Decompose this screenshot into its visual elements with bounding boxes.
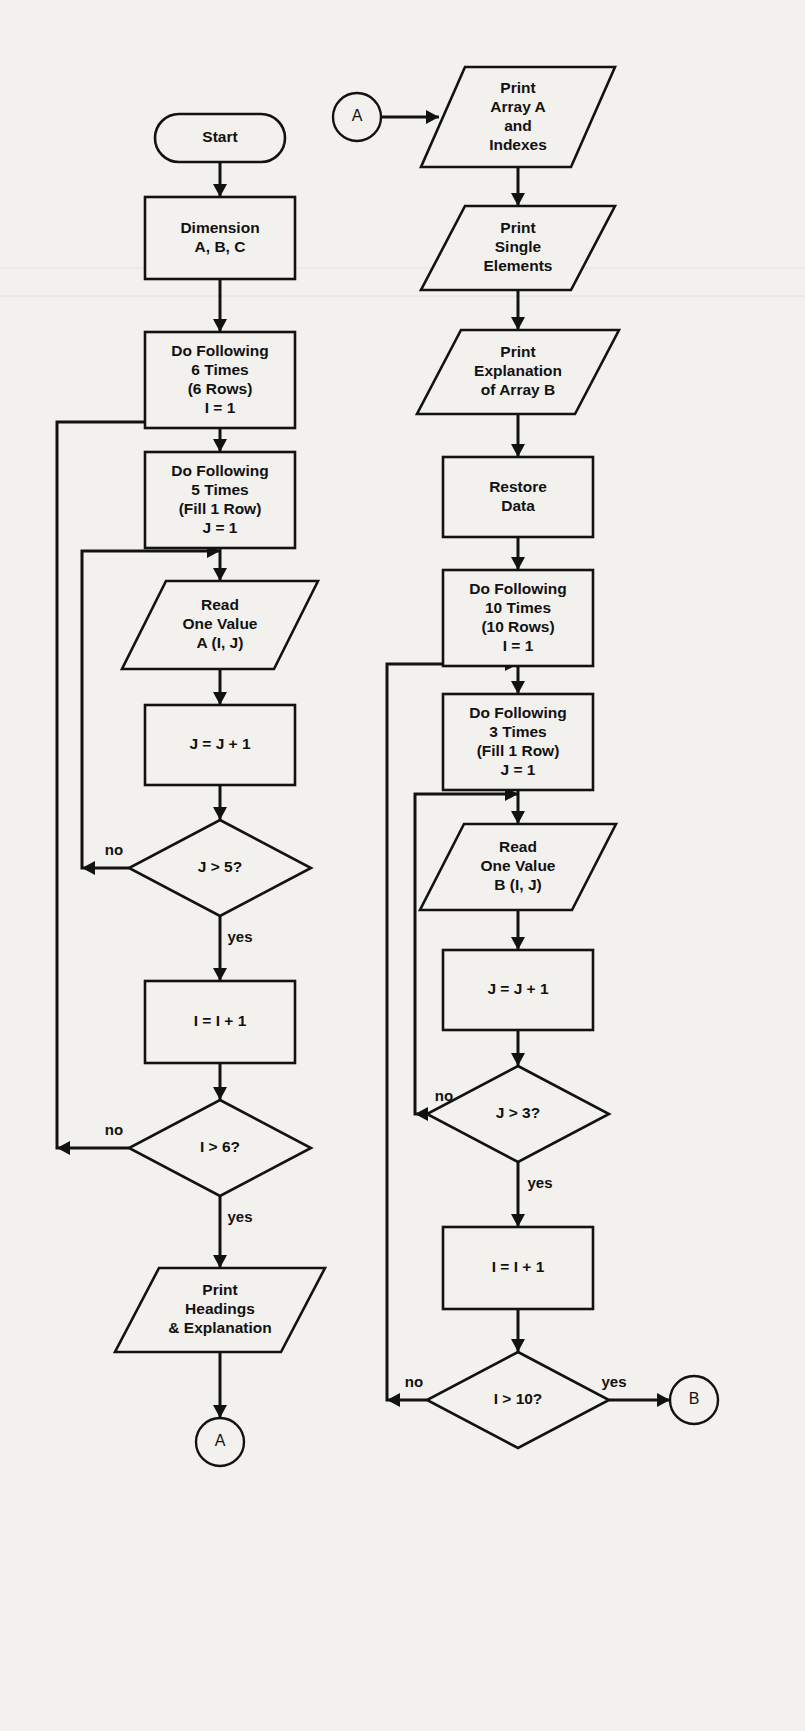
node-label: Headings bbox=[185, 1300, 255, 1317]
node-label: Dimension bbox=[180, 219, 259, 236]
node-label: Read bbox=[201, 596, 239, 613]
node-layer: StartDimensionA, B, CDo Following6 Times… bbox=[115, 67, 718, 1466]
node-label: & Explanation bbox=[168, 1319, 271, 1336]
arrow-head-icon bbox=[82, 861, 95, 875]
arrow-head-icon bbox=[511, 937, 525, 950]
node-label: Do Following bbox=[171, 462, 268, 479]
node-label: (6 Rows) bbox=[188, 380, 253, 397]
node-label: (Fill 1 Row) bbox=[179, 500, 262, 517]
node-label: I > 10? bbox=[494, 1390, 543, 1407]
node-label: J = 1 bbox=[203, 519, 238, 536]
arrow-head-icon bbox=[213, 568, 227, 581]
arrow-head-icon bbox=[387, 1393, 400, 1407]
arrow-head-icon bbox=[213, 1405, 227, 1418]
edge-label-i-gt-10-yes: yes bbox=[601, 1373, 626, 1390]
node-label: Print bbox=[500, 219, 535, 236]
arrow-head-icon bbox=[213, 692, 227, 705]
arrow-head-icon bbox=[57, 1141, 70, 1155]
arrow-head-icon bbox=[213, 1087, 227, 1100]
node-label: Indexes bbox=[489, 136, 547, 153]
node-label: One Value bbox=[183, 615, 258, 632]
edge-label-i-gt-6-yes: yes bbox=[227, 1208, 252, 1225]
node-label: J = J + 1 bbox=[189, 735, 251, 752]
node-label: One Value bbox=[481, 857, 556, 874]
node-label: B (I, J) bbox=[494, 876, 541, 893]
edge-label-i-gt-10-no: no bbox=[405, 1373, 423, 1390]
arrow-head-icon bbox=[511, 1053, 525, 1066]
node-label: Do Following bbox=[171, 342, 268, 359]
edge-label-j-gt-3-yes: yes bbox=[527, 1174, 552, 1191]
node-label: I > 6? bbox=[200, 1138, 240, 1155]
node-label: Data bbox=[501, 497, 535, 514]
node-label: J > 3? bbox=[496, 1104, 540, 1121]
edge-label-i-gt-6-no: no bbox=[105, 1121, 123, 1138]
node-label: 5 Times bbox=[191, 481, 248, 498]
node-label: (Fill 1 Row) bbox=[477, 742, 560, 759]
node-label: 3 Times bbox=[489, 723, 546, 740]
node-label: (10 Rows) bbox=[481, 618, 554, 635]
node-label: Elements bbox=[484, 257, 553, 274]
edge-label-j-gt-5-no: no bbox=[105, 841, 123, 858]
node-label: Explanation bbox=[474, 362, 562, 379]
arrow-head-icon bbox=[511, 1214, 525, 1227]
arrow-head-icon bbox=[213, 184, 227, 197]
arrow-head-icon bbox=[511, 1339, 525, 1352]
arrow-head-icon bbox=[213, 807, 227, 820]
edge-label-j-gt-3-no: no bbox=[435, 1087, 453, 1104]
arrow-head-icon bbox=[511, 193, 525, 206]
node-label: of Array B bbox=[481, 381, 555, 398]
node-label: B bbox=[689, 1390, 700, 1407]
node-label: J > 5? bbox=[198, 858, 242, 875]
node-label: A, B, C bbox=[195, 238, 246, 255]
flowchart-page: StartDimensionA, B, CDo Following6 Times… bbox=[0, 0, 805, 1731]
node-label: Restore bbox=[489, 478, 547, 495]
node-label: A (I, J) bbox=[197, 634, 244, 651]
node-label: Do Following bbox=[469, 580, 566, 597]
node-label: I = I + 1 bbox=[194, 1012, 247, 1029]
arrow-head-icon bbox=[213, 1255, 227, 1268]
node-label: 10 Times bbox=[485, 599, 551, 616]
arrow-head-icon bbox=[511, 681, 525, 694]
arrow-head-icon bbox=[511, 811, 525, 824]
node-label: Single bbox=[495, 238, 542, 255]
node-label: A bbox=[215, 1432, 226, 1449]
arrow-head-icon bbox=[213, 439, 227, 452]
edge-label-j-gt-5-yes: yes bbox=[227, 928, 252, 945]
flowchart-canvas: StartDimensionA, B, CDo Following6 Times… bbox=[0, 0, 805, 1731]
node-label: Print bbox=[202, 1281, 237, 1298]
arrow-head-icon bbox=[213, 319, 227, 332]
node-label: and bbox=[504, 117, 532, 134]
arrow-head-icon bbox=[426, 110, 439, 124]
arrow-head-icon bbox=[511, 557, 525, 570]
node-label: Start bbox=[202, 128, 237, 145]
node-label: Read bbox=[499, 838, 537, 855]
arrow-head-icon bbox=[511, 317, 525, 330]
arrow-head-icon bbox=[511, 444, 525, 457]
node-label: Array A bbox=[490, 98, 545, 115]
node-label: A bbox=[352, 107, 363, 124]
node-label: Do Following bbox=[469, 704, 566, 721]
node-label: I = I + 1 bbox=[492, 1258, 545, 1275]
arrow-head-icon bbox=[657, 1393, 670, 1407]
node-label: I = 1 bbox=[205, 399, 236, 416]
node-label: J = 1 bbox=[501, 761, 536, 778]
node-label: Print bbox=[500, 79, 535, 96]
node-label: J = J + 1 bbox=[487, 980, 549, 997]
node-label: 6 Times bbox=[191, 361, 248, 378]
node-label: Print bbox=[500, 343, 535, 360]
arrow-head-icon bbox=[213, 968, 227, 981]
node-label: I = 1 bbox=[503, 637, 534, 654]
